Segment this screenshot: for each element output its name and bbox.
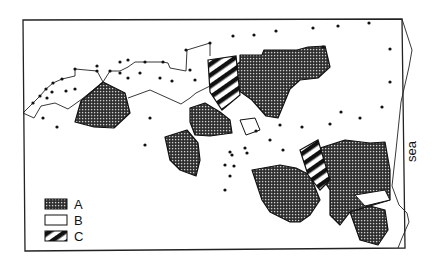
diagram-map: sea: [0, 0, 443, 263]
region-a-west: [75, 82, 130, 128]
legend-item-b: B: [45, 213, 83, 228]
legend-label-b: B: [74, 213, 83, 228]
region-a-south-west: [165, 130, 200, 176]
legend-item-a: A: [45, 197, 83, 212]
sea-label: sea: [404, 140, 419, 162]
legend: A B C: [45, 197, 83, 244]
region-b-patch-1: [240, 118, 260, 135]
legend-label-c: C: [74, 229, 83, 244]
region-a-far-south-east: [350, 206, 388, 245]
legend-label-a: A: [74, 197, 83, 212]
legend-swatch-a: [45, 199, 67, 209]
region-c-north: [208, 56, 240, 110]
region-a-centre: [190, 103, 232, 136]
legend-swatch-c: [45, 231, 67, 241]
region-a-north: [225, 46, 330, 118]
legend-swatch-b: [45, 215, 67, 225]
legend-item-c: C: [45, 229, 83, 244]
